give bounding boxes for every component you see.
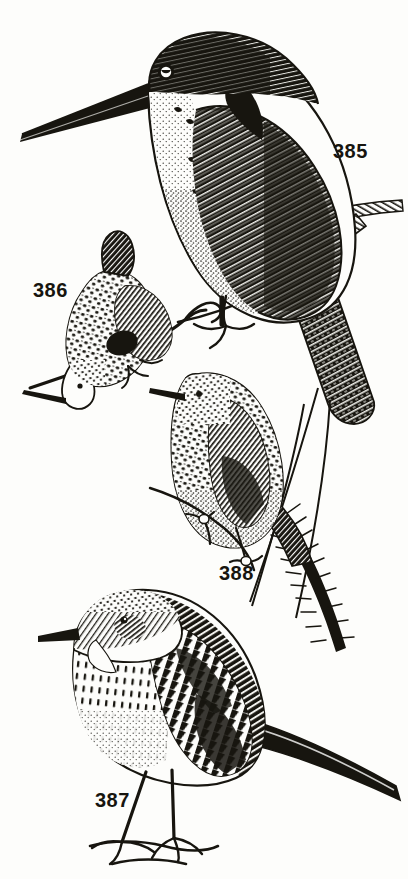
bill-385: [20, 84, 150, 142]
figure-label-388: 388: [219, 562, 254, 585]
eye-highlight-387: [124, 618, 126, 620]
tail-386: [102, 231, 134, 276]
eye-386: [77, 383, 82, 388]
bill-387: [38, 628, 80, 642]
eye-388: [196, 391, 202, 397]
figure-label-386: 386: [33, 279, 68, 302]
figure-label-385: 385: [333, 140, 368, 163]
bill-386: [22, 390, 66, 404]
eye-387: [120, 616, 127, 623]
foot-joint-388-a: [199, 515, 209, 524]
eye-385: [158, 64, 174, 80]
figure-label-387: 387: [95, 789, 130, 812]
plate-artwork: [0, 0, 408, 879]
figure-387-pipit: [38, 580, 400, 864]
illustration-plate: 385 386 388 387: [0, 0, 408, 879]
